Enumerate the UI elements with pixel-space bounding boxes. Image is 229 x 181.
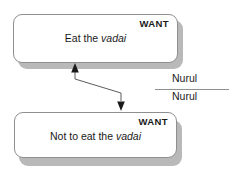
node-want-eat[interactable]: WANT Eat the vadai [13,14,178,63]
node-text-emphasis-want-not-eat: vadai [116,130,141,142]
annotation-nurul-bottom: Nurul [172,90,197,102]
node-body-want-not-eat: Not to eat the vadai [15,130,176,142]
arrowhead-down-icon [117,102,125,112]
node-want-not-eat[interactable]: WANT Not to eat the vadai [14,112,177,158]
annotation-nurul-top: Nurul [172,72,197,84]
node-header-want-eat: WANT [139,18,169,29]
node-text-emphasis-want-eat: vadai [101,32,126,44]
diagram-canvas: WANT Eat the vadai WANT Not to eat the v… [0,0,229,181]
node-header-want-not-eat: WANT [138,116,168,127]
node-text-prefix-want-not-eat: Not to eat the [50,130,116,142]
node-body-want-eat: Eat the vadai [14,32,177,44]
node-text-prefix-want-eat: Eat the [65,32,101,44]
